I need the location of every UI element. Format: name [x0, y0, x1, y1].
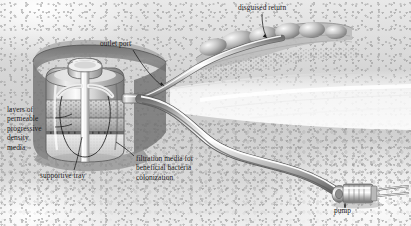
label-filtration-media: filtration media for beneficial bacteria…: [136, 154, 193, 182]
vessel-lid: [68, 58, 102, 79]
filter-vessel: [44, 58, 143, 171]
label-supportive-tray: supportive tray: [40, 171, 85, 180]
label-pump: pump: [334, 206, 351, 215]
leader-outlet-port: [133, 50, 162, 86]
media-layers: [44, 100, 126, 171]
return-hose: [142, 36, 282, 98]
support-tray: [44, 131, 126, 134]
outlet-fitting: [122, 94, 143, 103]
soil-grain-texture: [0, 0, 411, 226]
center-standpipe: [58, 72, 112, 162]
label-layers-permeable-media: layers of permeable progressive density …: [7, 105, 42, 152]
leader-layers-media: [55, 114, 72, 118]
flow-arrows: [60, 96, 110, 157]
label-disguised-return: disguised return: [238, 3, 286, 12]
illustration-canvas: outlet port disguised return layers of p…: [0, 0, 411, 226]
label-outlet-port: outlet port: [100, 39, 131, 48]
rock-boulders: [196, 21, 360, 80]
leader-supportive-tray: [74, 137, 82, 170]
illustration-artwork: [0, 0, 411, 226]
pump-unit: [331, 184, 409, 208]
leader-filtration-media: [116, 142, 134, 156]
leader-lines: [55, 14, 345, 208]
soil-ground: [0, 0, 411, 226]
water-surface: [150, 70, 411, 130]
excavation-pit: [33, 40, 168, 171]
leader-disguised-return: [262, 14, 266, 36]
